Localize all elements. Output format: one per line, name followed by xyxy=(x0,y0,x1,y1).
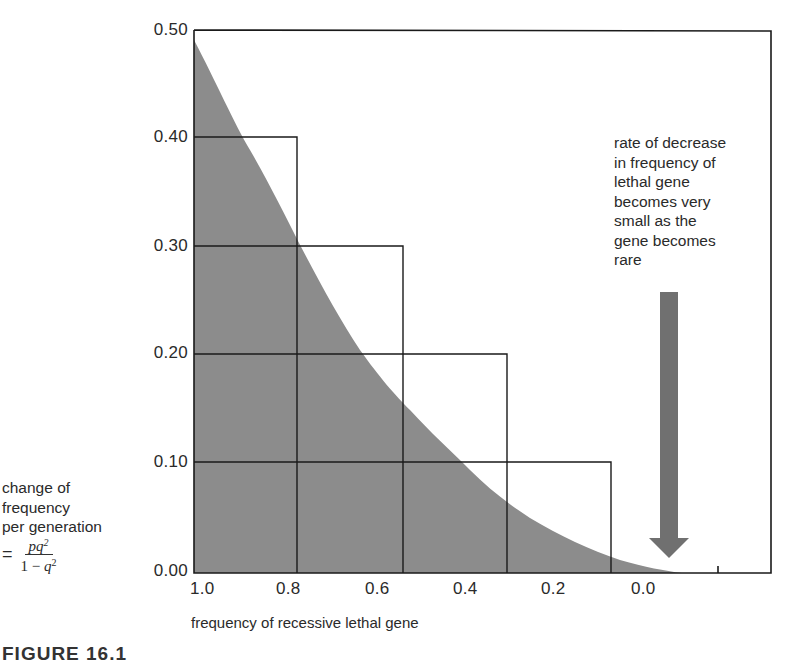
formula: = pq2 1 − q2 xyxy=(2,535,58,574)
formula-numerator: pq2 xyxy=(25,535,53,555)
x-tick-label: 0.0 xyxy=(631,579,656,599)
y-axis-label-line: per generation xyxy=(2,517,102,537)
figure-caption: FIGURE 16.1 xyxy=(2,643,127,664)
denominator-exponent: 2 xyxy=(51,557,56,568)
annotation-text: rate of decrease in frequency of lethal … xyxy=(614,133,726,270)
formula-equals: = xyxy=(2,544,13,565)
x-axis-label: frequency of recessive lethal gene xyxy=(191,614,419,631)
formula-fraction: pq2 1 − q2 xyxy=(19,535,59,574)
y-tick-label: 0.40 xyxy=(132,127,188,147)
x-tick-label: 0.2 xyxy=(541,579,566,599)
down-arrow-icon xyxy=(649,292,689,558)
y-tick-label: 0.00 xyxy=(132,561,188,581)
y-tick-label: 0.30 xyxy=(132,236,188,256)
denominator-prefix: 1 − xyxy=(21,558,44,574)
numerator-text: pq xyxy=(29,538,44,554)
x-tick-label: 0.6 xyxy=(365,579,390,599)
formula-denominator: 1 − q2 xyxy=(19,555,59,574)
numerator-exponent: 2 xyxy=(44,537,49,548)
y-tick-label: 0.20 xyxy=(132,343,188,363)
y-axis-label: change of frequency per generation xyxy=(2,478,102,537)
y-axis-label-line: frequency xyxy=(2,498,102,518)
x-tick-label: 1.0 xyxy=(190,579,215,599)
y-axis-label-line: change of xyxy=(2,478,102,498)
shaded-curve-area xyxy=(194,40,682,573)
x-tick-label: 0.4 xyxy=(453,579,478,599)
y-tick-label: 0.10 xyxy=(132,452,188,472)
x-tick-label: 0.8 xyxy=(276,579,301,599)
y-tick-label: 0.50 xyxy=(132,20,188,40)
